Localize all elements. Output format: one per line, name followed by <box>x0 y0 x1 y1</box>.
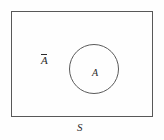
venn-diagram-canvas: A A S <box>0 0 164 140</box>
universal-set-label: S <box>77 122 83 133</box>
set-a-label: A <box>92 68 98 78</box>
complement-overbar-text: A <box>41 54 48 66</box>
complement-set-label: A <box>41 54 48 66</box>
